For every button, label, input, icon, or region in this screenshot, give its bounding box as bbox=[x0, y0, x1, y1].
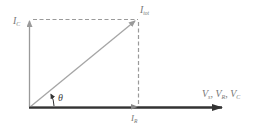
phasor-diagram: IC Itot IR θ Vs, VR, VC bbox=[0, 0, 254, 127]
ic-label: IC bbox=[12, 15, 21, 27]
itot-vector-arrow bbox=[30, 21, 135, 107]
ir-label: IR bbox=[130, 113, 138, 124]
theta-label: θ bbox=[58, 92, 63, 103]
voltage-axis-label: Vs, VR, VC bbox=[202, 88, 241, 100]
theta-angle-arc bbox=[51, 95, 54, 107]
itot-label: Itot bbox=[139, 4, 150, 16]
